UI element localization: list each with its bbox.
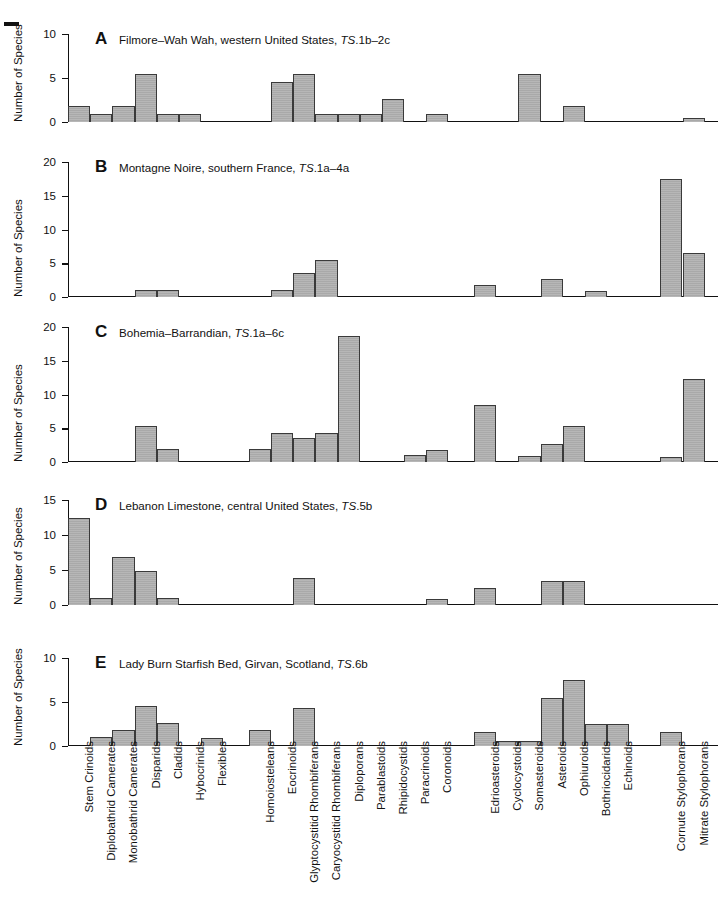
time-slice-code: TS <box>341 499 356 512</box>
y-tick-mark <box>62 327 68 328</box>
bar <box>660 457 682 462</box>
bar <box>541 279 563 297</box>
y-tick-mark <box>62 605 68 606</box>
panel-letter-a: A <box>95 29 107 49</box>
panel-title-c: Bohemia–Barrandian, TS.1a–6c <box>119 326 284 339</box>
bar <box>293 273 315 297</box>
panel-letter-c: C <box>95 322 107 342</box>
y-axis-title-text: Number of Species <box>12 199 24 297</box>
y-axis-title-text: Number of Species <box>12 364 24 462</box>
category-label: Diplobathrid Camerates <box>106 741 117 861</box>
panel-e: Number of Species0510ELady Burn Starfish… <box>0 640 720 752</box>
category-label: Monobathrid Camerates <box>128 741 139 863</box>
bar <box>360 114 382 122</box>
category-label: Stem Crinoids <box>84 741 95 813</box>
figure-root: Number of Species0510AFilmore–Wah Wah, w… <box>0 0 720 916</box>
y-tick-label: 10 <box>43 224 56 236</box>
y-tick-label: 15 <box>43 494 56 506</box>
bar <box>426 114 448 122</box>
y-tick-label: 5 <box>50 422 56 434</box>
y-tick-mark <box>62 658 68 659</box>
plot-area-b <box>68 162 718 297</box>
bar <box>293 438 315 462</box>
category-label: Ophiuroids <box>579 741 590 796</box>
bar <box>157 449 179 463</box>
y-tick-mark <box>62 462 68 463</box>
category-label: Flexibles <box>217 741 228 786</box>
category-label: Caryocystitid Rhombiferans <box>331 741 342 880</box>
y-tick-label: 5 <box>50 564 56 576</box>
y-tick-label: 15 <box>43 355 56 367</box>
y-tick-mark <box>62 500 68 501</box>
bar <box>271 82 293 122</box>
bar <box>271 290 293 297</box>
bar <box>135 290 157 297</box>
category-label: Echinoids <box>623 741 634 790</box>
bar <box>135 426 157 462</box>
category-label: Parablastoids <box>376 741 387 810</box>
y-tick-label: 20 <box>43 321 56 333</box>
bar <box>426 599 448 605</box>
bar <box>112 106 134 122</box>
bar <box>563 680 585 746</box>
y-axis-title-text: Number of Species <box>12 507 24 605</box>
bar <box>338 336 360 462</box>
category-label: Hybocrinids <box>195 741 206 801</box>
y-tick-label: 10 <box>43 652 56 664</box>
y-tick-mark <box>62 263 68 264</box>
y-tick-label: 10 <box>43 389 56 401</box>
bar <box>157 290 179 297</box>
plot-area-d <box>68 500 718 605</box>
time-slice-code: TS <box>340 33 355 46</box>
y-tick-label: 0 <box>50 740 56 752</box>
y-tick-mark <box>62 395 68 396</box>
panel-title-e: Lady Burn Starfish Bed, Girvan, Scotland… <box>119 657 368 670</box>
bar <box>293 74 315 122</box>
y-tick-mark <box>62 196 68 197</box>
bar <box>541 698 563 746</box>
y-tick-label: 15 <box>43 190 56 202</box>
y-tick-labels-a: 0510 <box>26 34 56 122</box>
y-tick-labels-b: 05101520 <box>26 162 56 297</box>
bar <box>68 106 90 122</box>
bar <box>135 571 157 605</box>
y-tick-label: 0 <box>50 599 56 611</box>
category-label: Asteroids <box>557 741 568 788</box>
bar <box>585 291 607 297</box>
y-tick-label: 5 <box>50 72 56 84</box>
bar <box>518 456 540 462</box>
bar <box>135 74 157 122</box>
plot-area-c <box>68 327 718 462</box>
plot-area-e <box>68 658 718 746</box>
bar <box>474 588 496 606</box>
y-tick-label: 0 <box>50 116 56 128</box>
category-label: Glyptocystitid Rhombiferans <box>309 741 320 883</box>
plot-area-a <box>68 34 718 122</box>
panel-letter-d: D <box>95 495 107 515</box>
y-tick-mark <box>62 78 68 79</box>
bar <box>249 449 271 462</box>
category-label: Cornute Stylophorans <box>676 741 687 851</box>
bar <box>474 405 496 462</box>
bar <box>563 106 585 122</box>
y-axis-title-text: Number of Species <box>12 24 24 122</box>
y-tick-mark <box>62 34 68 35</box>
y-tick-label: 10 <box>43 28 56 40</box>
bar <box>90 598 112 605</box>
bar <box>426 450 448 462</box>
y-tick-mark <box>62 361 68 362</box>
panel-title-d: Lebanon Limestone, central United States… <box>119 499 372 512</box>
panel-c: Number of Species05101520CBohemia–Barran… <box>0 320 720 468</box>
panel-b: Number of Species05101520BMontagne Noire… <box>0 155 720 303</box>
y-axis-line <box>68 658 69 746</box>
time-slice-code: TS <box>234 326 249 339</box>
bar <box>315 433 337 462</box>
y-tick-mark <box>62 297 68 298</box>
y-tick-mark <box>62 702 68 703</box>
category-label: Eocrinoids <box>287 741 298 794</box>
bar <box>563 426 585 462</box>
panel-letter-b: B <box>95 157 107 177</box>
bar <box>179 114 201 122</box>
bar <box>683 253 705 297</box>
y-tick-mark <box>62 428 68 429</box>
